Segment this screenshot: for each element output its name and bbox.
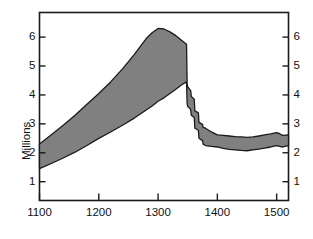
y-tick-label-left-3: 3 [22, 118, 36, 130]
y-tick-label-right-4: 4 [294, 89, 308, 101]
y-tick-label-left-6: 6 [22, 31, 36, 43]
chart-canvas [0, 0, 313, 239]
x-tick-label-1200: 1200 [79, 207, 119, 219]
y-axis-ticks-right [283, 37, 289, 182]
x-axis-ticks [40, 194, 277, 201]
population-band-chart: Millions 1234561234561100120013001400150… [0, 0, 313, 239]
y-tick-label-left-4: 4 [22, 89, 36, 101]
y-tick-label-right-6: 6 [294, 31, 308, 43]
y-tick-label-right-1: 1 [294, 176, 308, 188]
x-tick-label-1100: 1100 [20, 207, 60, 219]
x-tick-label-1500: 1500 [257, 207, 297, 219]
y-tick-label-left-1: 1 [22, 176, 36, 188]
y-tick-label-right-5: 5 [294, 60, 308, 72]
x-tick-label-1300: 1300 [138, 207, 178, 219]
y-tick-label-right-2: 2 [294, 147, 308, 159]
y-tick-label-right-3: 3 [294, 118, 308, 130]
y-tick-label-left-5: 5 [22, 60, 36, 72]
x-tick-label-1400: 1400 [197, 207, 237, 219]
estimate-band-area [40, 28, 289, 168]
y-tick-label-left-2: 2 [22, 147, 36, 159]
